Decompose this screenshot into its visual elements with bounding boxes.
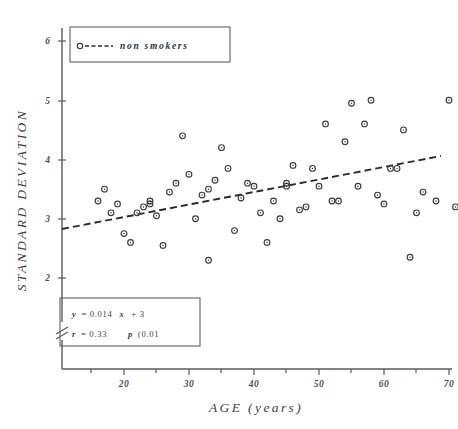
x-tick-label-60: 60 (379, 379, 390, 389)
stats-p-label: p (127, 329, 133, 339)
legend-box: non smokers (70, 27, 230, 62)
stats-eq-x: x (118, 309, 124, 319)
data-point (362, 121, 368, 127)
stats-r-value: = 0.33 (81, 329, 107, 339)
regression-line (62, 156, 441, 229)
data-point (368, 97, 374, 103)
figure-container: 6 5 4 3 2 20 30 40 50 60 70 non smokers (0, 0, 458, 429)
data-point (290, 163, 296, 169)
data-point (342, 139, 348, 145)
data-point (401, 127, 407, 133)
data-point (134, 210, 140, 216)
stats-eq-const: + 3 (131, 309, 144, 319)
data-point (420, 189, 426, 195)
x-tick-label-50: 50 (314, 379, 325, 389)
x-tick-label-70: 70 (444, 379, 455, 389)
stats-box: y = 0.014 x + 3 r = 0.33 p (0.01 (60, 298, 200, 346)
data-point (232, 228, 238, 234)
data-point (329, 198, 335, 204)
data-point (277, 216, 283, 222)
stats-correlation-line: r = 0.33 p (0.01 (72, 329, 159, 339)
data-point (297, 207, 303, 213)
data-points-layer (95, 97, 458, 263)
data-point (414, 210, 420, 216)
data-point (121, 231, 127, 237)
stats-r-label: r (72, 329, 76, 339)
x-axis-title: AGE (years) (208, 400, 303, 415)
data-point (264, 240, 270, 246)
data-point (154, 213, 160, 219)
data-point (225, 166, 231, 172)
data-point (375, 192, 381, 198)
data-point (303, 204, 309, 210)
data-point (271, 198, 277, 204)
data-point (407, 254, 413, 260)
data-point (238, 195, 244, 201)
data-point (284, 180, 290, 186)
y-tick-label-4: 4 (44, 155, 50, 165)
scatter-plot-canvas: 6 5 4 3 2 20 30 40 50 60 70 non smokers (0, 0, 458, 429)
y-tick-label-2: 2 (44, 273, 50, 283)
data-point (349, 100, 355, 106)
y-tick-label-3: 3 (44, 214, 50, 224)
data-point (167, 189, 173, 195)
data-point (446, 97, 452, 103)
data-point (336, 198, 342, 204)
x-tick-label-20: 20 (118, 379, 130, 389)
data-point (355, 183, 361, 189)
data-point (128, 240, 134, 246)
stats-eq-y: y (71, 309, 77, 319)
data-point (186, 171, 192, 177)
data-point (173, 180, 179, 186)
data-point (310, 166, 316, 172)
data-point (206, 257, 212, 263)
data-point (115, 201, 121, 207)
x-tick-label-40: 40 (248, 379, 260, 389)
data-point (147, 198, 153, 204)
y-tick-label-6: 6 (45, 36, 50, 46)
data-point (394, 166, 400, 172)
data-point (206, 186, 212, 192)
data-point (219, 145, 225, 151)
data-point (108, 210, 114, 216)
x-tick-label-30: 30 (183, 379, 195, 389)
legend-label: non smokers (120, 41, 189, 51)
data-point (180, 133, 186, 139)
data-point (433, 198, 439, 204)
data-point (245, 180, 251, 186)
data-point (453, 204, 458, 210)
data-point (258, 210, 264, 216)
data-point (381, 201, 387, 207)
stats-p-value: (0.01 (138, 329, 159, 339)
stats-equation-line: y = 0.014 x + 3 (71, 309, 145, 319)
data-point (323, 121, 329, 127)
data-point (102, 186, 108, 192)
data-point (316, 183, 322, 189)
data-point (193, 216, 199, 222)
data-point (212, 177, 218, 183)
y-axis-title: STANDARD DEVIATION (14, 109, 29, 291)
x-ticks-group (91, 369, 449, 375)
stats-eq-coef: = 0.014 (81, 309, 112, 319)
data-point (251, 183, 257, 189)
legend-open-circle-marker (77, 43, 82, 48)
data-point (95, 198, 101, 204)
data-point (160, 243, 166, 249)
x-tick-labels: 20 30 40 50 60 70 (118, 379, 455, 389)
data-point (141, 204, 147, 210)
y-tick-label-5: 5 (45, 96, 50, 106)
data-point (199, 192, 205, 198)
y-tick-labels: 6 5 4 3 2 (44, 36, 50, 283)
